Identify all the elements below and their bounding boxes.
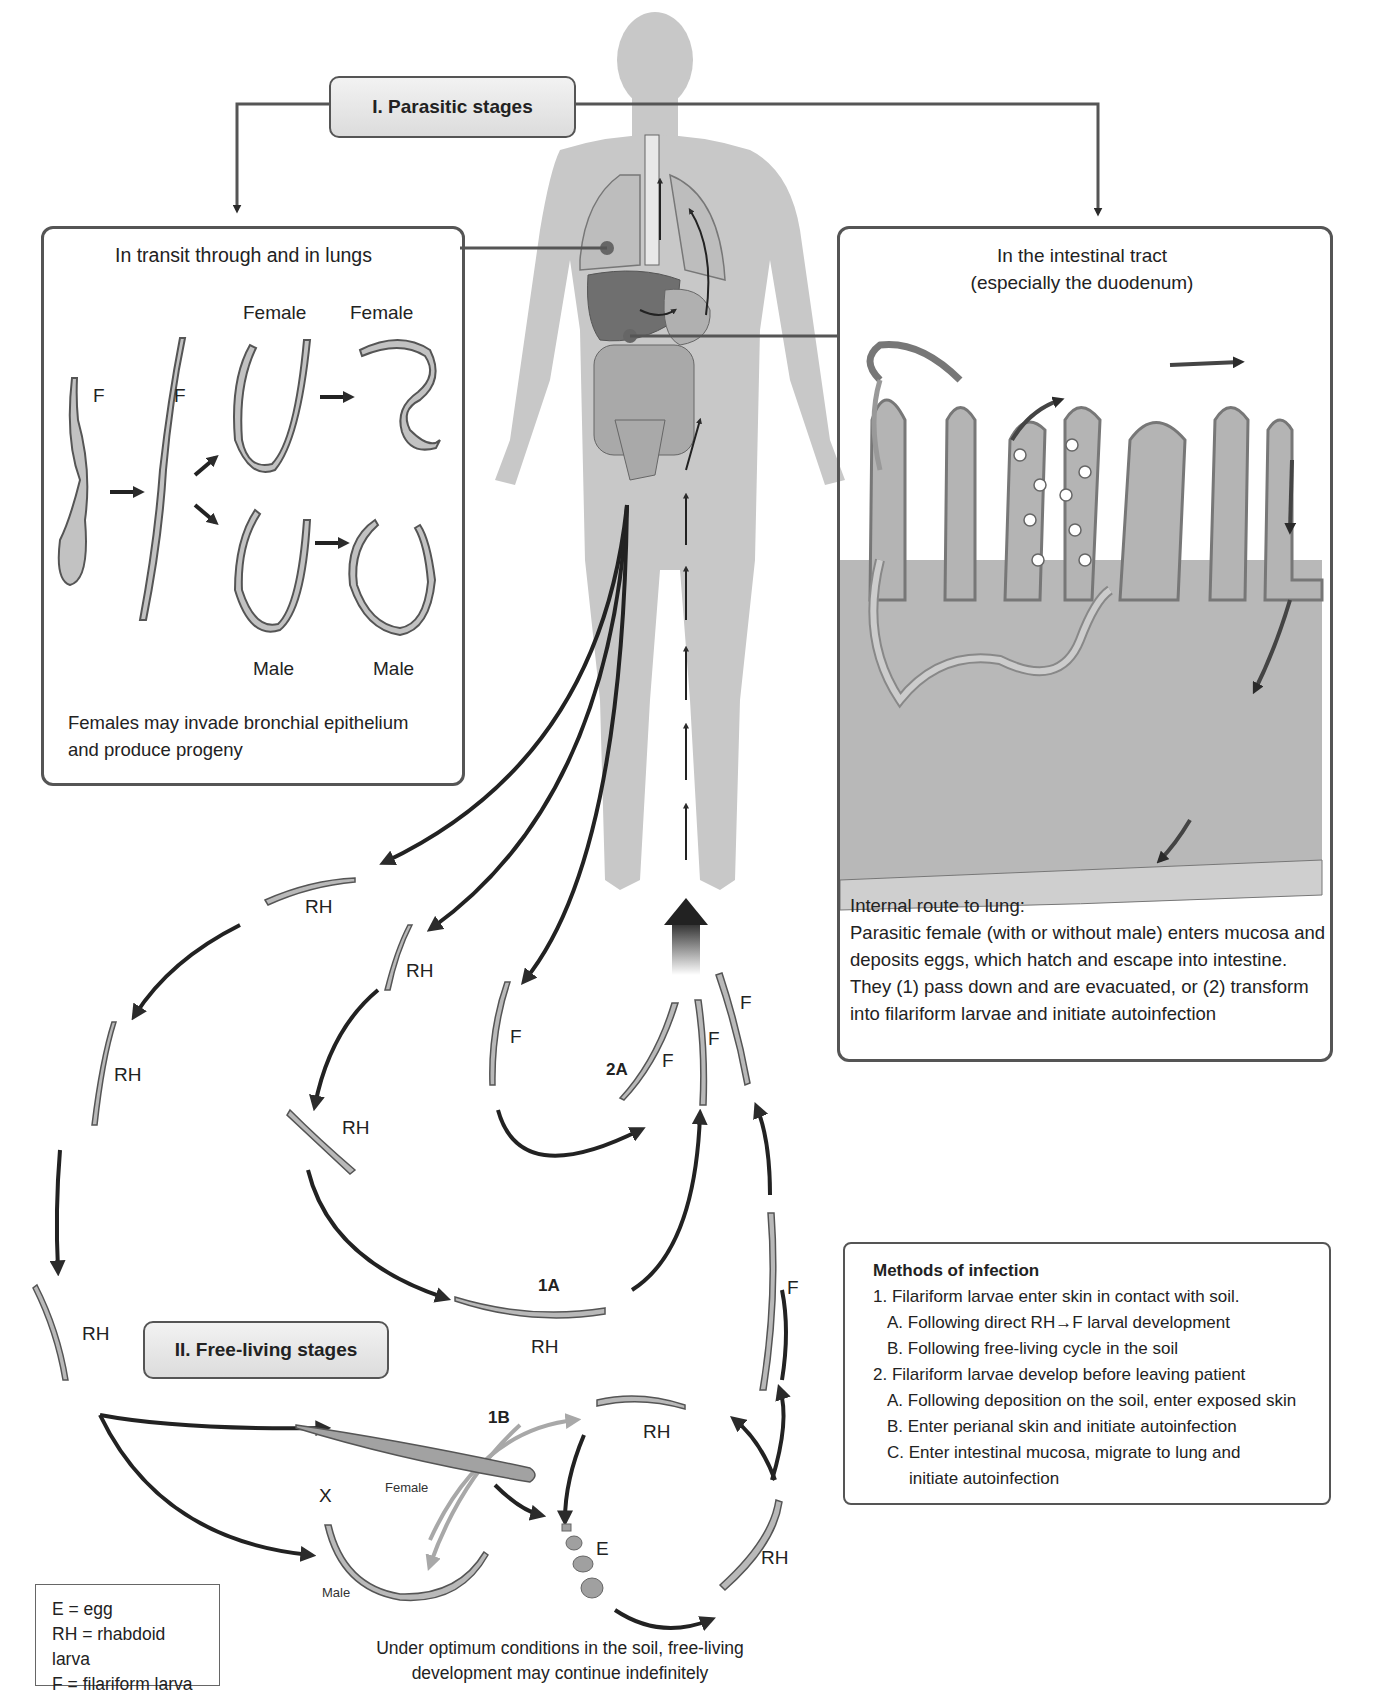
parasitic-stages-label: I. Parasitic stages [372,96,533,118]
route-1b-gray-arrow [430,1420,575,1540]
methods-title: Methods of infection [873,1258,1329,1284]
legend-item: RH = rhabdoid larva [52,1622,203,1672]
lung-panel-caption: Females may invade bronchial epithelium … [68,709,408,763]
intestine-panel-caption: Internal route to lung: Parasitic female… [850,892,1325,1027]
methods-item: B. Following free-living cycle in the so… [873,1336,1329,1362]
trachea-organ [645,135,659,265]
methods-item: C. Enter intestinal mucosa, migrate to l… [873,1440,1329,1466]
label-rh-5: RH [82,1323,109,1345]
label-male-1: Male [253,658,294,680]
label-rh-4: RH [342,1117,369,1139]
big-up-arrow-shaft [672,920,700,975]
label-f-2a: F [662,1050,674,1072]
legend-item: E = egg [52,1597,203,1622]
label-route-2a: 2A [606,1060,628,1080]
methods-item: B. Enter perianal skin and initiate auto… [873,1414,1329,1440]
intestine-panel-title: In the intestinal tract (especially the … [837,242,1327,296]
label-f-mid: F [708,1028,720,1050]
label-f-2: F [174,385,186,407]
label-rh-1: RH [305,896,332,918]
methods-of-infection-box: Methods of infection 1. Filariform larva… [843,1242,1331,1505]
methods-item: A. Following deposition on the soil, ent… [873,1388,1329,1414]
cycle-arrows [57,925,786,1628]
label-egg: E [596,1538,609,1560]
label-female-2: Female [350,302,413,324]
free-living-stages-label: II. Free-living stages [175,1339,358,1361]
methods-item: 2. Filariform larvae develop before leav… [873,1362,1329,1388]
label-rh-right: RH [761,1547,788,1569]
label-route-1a: 1A [538,1276,560,1296]
free-living-stages-box: II. Free-living stages [143,1321,389,1379]
label-x: X [319,1485,332,1507]
label-f-1: F [93,385,105,407]
label-male-2: Male [373,658,414,680]
footer-note: Under optimum conditions in the soil, fr… [360,1636,760,1686]
label-route-1b: 1B [488,1408,510,1428]
legend-item: F = filariform larva [52,1672,203,1697]
eggs [562,1524,603,1598]
lung-panel-title: In transit through and in lungs [115,244,372,267]
legend-box: E = egg RH = rhabdoid larva F = filarifo… [35,1584,220,1686]
label-rh-top: RH [643,1421,670,1443]
label-female: Female [385,1480,428,1495]
big-up-arrow-head [664,898,708,925]
label-rh-2: RH [406,960,433,982]
methods-item: A. Following direct RH→F larval developm… [873,1310,1329,1336]
label-rh-3: RH [114,1064,141,1086]
label-f-low: F [787,1277,799,1299]
methods-item: initiate autoinfection [873,1466,1329,1492]
methods-item: 1. Filariform larvae enter skin in conta… [873,1284,1329,1310]
label-f-right: F [740,992,752,1014]
parasitic-stages-box: I. Parasitic stages [329,76,576,138]
label-f-left: F [510,1026,522,1048]
label-rh-1a: RH [531,1336,558,1358]
label-female-1: Female [243,302,306,324]
label-male: Male [322,1585,350,1600]
